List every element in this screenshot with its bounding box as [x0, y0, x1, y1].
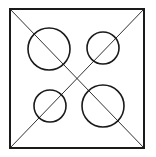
diagonals-group	[10, 9, 144, 148]
square-diagonals-circles-diagram	[0, 0, 156, 157]
circle-top-right	[87, 32, 119, 64]
diagram-canvas	[0, 0, 156, 157]
